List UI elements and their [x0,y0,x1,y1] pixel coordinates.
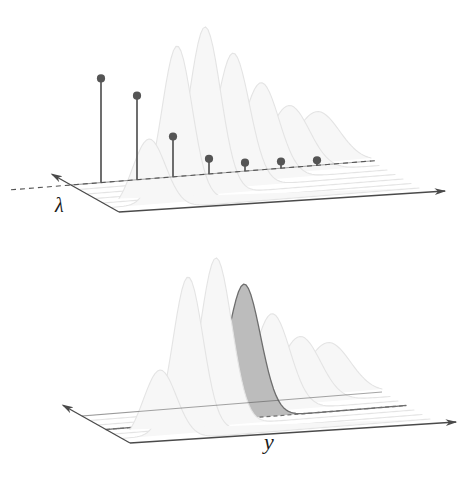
stem-marker-dot [169,132,177,140]
stem-marker-dot [313,156,321,164]
lambda-panel: λ [0,0,465,241]
y-panel: y [0,241,465,482]
depth-axis-arrow [63,405,130,443]
stem-marker-dot [205,155,213,163]
y-axis-label: y [262,429,274,454]
stem-marker-dot [277,157,285,165]
stem-marker-dot [133,92,141,100]
lambda-axis-label: λ [54,194,64,216]
y-panel-canvas: y [0,241,465,482]
stem-marker-dot [241,159,249,167]
lambda-panel-canvas: λ [0,0,465,241]
figure-root: λ y [0,0,465,482]
stem-marker-dot [97,74,105,82]
